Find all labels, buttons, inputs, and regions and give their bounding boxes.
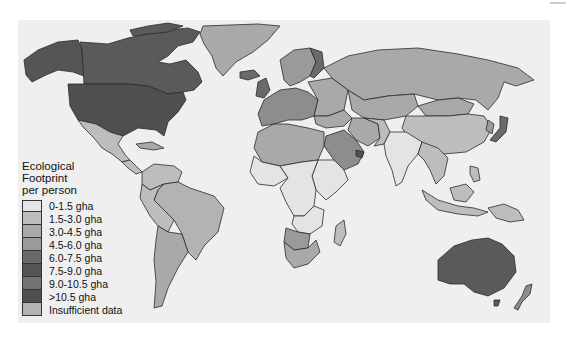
- map-legend: Ecological Footprint per person 0-1.5 gh…: [22, 160, 122, 316]
- region-caribbean: [136, 142, 164, 150]
- region-uk: [256, 78, 270, 98]
- region-north-africa: [254, 124, 324, 166]
- region-iceland: [240, 70, 260, 80]
- top-rule: [550, 2, 566, 4]
- legend-item: Insufficient data: [22, 303, 122, 316]
- legend-item: 3.0-4.5 gha: [22, 225, 122, 238]
- legend-item: 7.5-9.0 gha: [22, 264, 122, 277]
- legend-swatch: [22, 277, 42, 290]
- legend-swatch: [22, 303, 42, 316]
- region-greenland: [200, 24, 280, 76]
- legend-item: 6.0-7.5 gha: [22, 251, 122, 264]
- legend-item: >10.5 gha: [22, 290, 122, 303]
- region-philippines: [470, 166, 480, 182]
- region-central-america: [122, 160, 142, 174]
- legend-title: Ecological Footprint per person: [22, 160, 122, 196]
- legend-swatch: [22, 238, 42, 251]
- legend-swatch: [22, 264, 42, 277]
- region-scandinavia: [280, 48, 316, 86]
- legend-item: 1.5-3.0 gha: [22, 212, 122, 225]
- region-borneo: [450, 184, 474, 202]
- legend-item: 4.5-6.0 gha: [22, 238, 122, 251]
- legend-swatch: [22, 290, 42, 303]
- region-australia: [438, 238, 516, 296]
- region-new-guinea: [488, 204, 524, 222]
- region-new-zealand: [514, 284, 532, 310]
- legend-swatch: [22, 200, 42, 212]
- region-madagascar: [334, 220, 346, 246]
- region-india: [384, 132, 422, 186]
- legend-swatch: [22, 251, 42, 264]
- legend-item: 9.0-10.5 gha: [22, 277, 122, 290]
- legend-swatch: [22, 225, 42, 238]
- legend-item: 0-1.5 gha: [22, 199, 122, 212]
- region-alaska: [24, 40, 84, 82]
- legend-swatch: [22, 212, 42, 225]
- region-mongolia: [418, 98, 474, 116]
- region-argentina-chile: [154, 226, 188, 308]
- region-tasmania: [494, 300, 500, 306]
